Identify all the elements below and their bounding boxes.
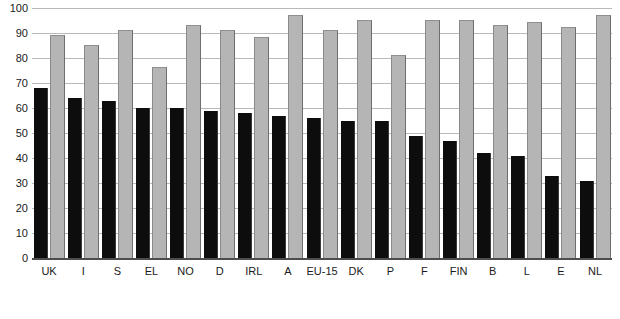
bar-series-1-B <box>477 153 491 258</box>
x-tick-label: S <box>100 264 134 282</box>
x-tick-label: I <box>66 264 100 282</box>
y-tick-label: 20 <box>2 203 28 214</box>
y-tick-label: 60 <box>2 103 28 114</box>
x-tick-label: UK <box>32 264 66 282</box>
x-tick-label: IRL <box>237 264 271 282</box>
bar-group <box>169 8 203 258</box>
y-tick-label: 50 <box>2 128 28 139</box>
y-tick-label: 90 <box>2 28 28 39</box>
bar-series-1-A <box>272 116 286 259</box>
y-tick-label: 80 <box>2 53 28 64</box>
x-tick-label: FIN <box>442 264 476 282</box>
bar-group <box>237 8 271 258</box>
y-tick-label: 0 <box>2 253 28 264</box>
bar-series-1-IRL <box>238 113 252 258</box>
bar-series-1-P <box>375 121 389 259</box>
bar-series-1-UK <box>34 88 48 258</box>
bar-group <box>32 8 66 258</box>
bar-group <box>510 8 544 258</box>
bar-group <box>271 8 305 258</box>
bar-groups <box>32 8 612 258</box>
y-tick-label: 100 <box>2 3 28 14</box>
bar-series-1-D <box>204 111 218 259</box>
x-tick-label: E <box>544 264 578 282</box>
x-axis-tick-labels: UKISELNODIRLAEU-15DKPFFINBLENL <box>32 264 612 282</box>
bar-series-2-P <box>391 55 406 259</box>
y-tick-label: 40 <box>2 153 28 164</box>
y-tick-label: 10 <box>2 228 28 239</box>
bar-series-1-L <box>511 156 525 259</box>
bar-series-1-EU-15 <box>307 118 321 258</box>
bar-series-2-S <box>118 30 133 259</box>
bar-series-2-A <box>288 15 303 259</box>
bar-series-1-F <box>409 136 423 259</box>
bar-series-2-E <box>561 27 576 258</box>
bar-series-2-NO <box>186 25 201 259</box>
bar-series-2-EU-15 <box>323 30 338 259</box>
bar-series-2-B <box>493 25 508 259</box>
x-tick-label: EL <box>134 264 168 282</box>
bar-series-1-E <box>545 176 559 259</box>
bar-group <box>407 8 441 258</box>
y-tick-label: 70 <box>2 78 28 89</box>
bar-series-1-S <box>102 101 116 259</box>
x-tick-label: NL <box>578 264 612 282</box>
bar-group <box>100 8 134 258</box>
bar-series-1-NO <box>170 108 184 258</box>
bar-series-2-FIN <box>459 20 474 259</box>
y-tick-label: 30 <box>2 178 28 189</box>
bar-series-2-NL <box>596 15 611 259</box>
x-tick-label: F <box>407 264 441 282</box>
x-tick-label: A <box>271 264 305 282</box>
x-tick-label: DK <box>339 264 373 282</box>
bar-group <box>134 8 168 258</box>
bar-group <box>66 8 100 258</box>
bar-series-2-UK <box>50 35 65 259</box>
bar-series-1-DK <box>341 121 355 259</box>
bar-series-2-I <box>84 45 99 259</box>
bar-group <box>578 8 612 258</box>
bar-group <box>203 8 237 258</box>
bar-group <box>339 8 373 258</box>
x-tick-label: D <box>203 264 237 282</box>
bar-group <box>305 8 339 258</box>
bar-group <box>476 8 510 258</box>
x-tick-label: NO <box>169 264 203 282</box>
bar-group <box>442 8 476 258</box>
bar-series-1-I <box>68 98 82 258</box>
x-tick-label: L <box>510 264 544 282</box>
x-tick-label: B <box>476 264 510 282</box>
bar-series-2-DK <box>357 20 372 259</box>
bar-series-2-EL <box>152 67 167 258</box>
bar-group <box>544 8 578 258</box>
x-tick-label: EU-15 <box>305 264 339 282</box>
bar-series-2-D <box>220 30 235 259</box>
bar-series-1-NL <box>580 181 594 259</box>
bar-group <box>373 8 407 258</box>
x-tick-label: P <box>373 264 407 282</box>
bar-series-1-EL <box>136 108 150 258</box>
bar-chart: 1009080706050403020100 UKISELNODIRLAEU-1… <box>0 0 620 319</box>
bar-series-2-IRL <box>254 37 269 258</box>
bar-series-2-L <box>527 22 542 258</box>
bar-series-2-F <box>425 20 440 259</box>
bar-series-1-FIN <box>443 141 457 259</box>
y-axis-tick-labels: 1009080706050403020100 <box>0 8 28 258</box>
x-axis-baseline <box>32 258 612 260</box>
